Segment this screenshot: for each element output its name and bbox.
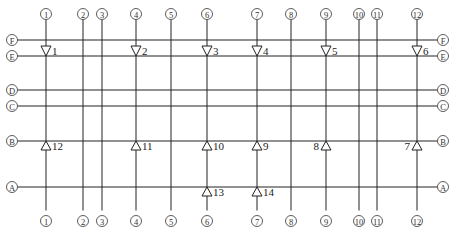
column-axis-12: 1212 (412, 9, 423, 227)
column-label: 5 (169, 217, 173, 227)
column-label: 11 (373, 10, 381, 20)
point-6: 6 (412, 45, 429, 57)
column-bubble-top: 8 (286, 9, 297, 20)
row-axis-E: EE (7, 51, 449, 62)
column-label: 10 (355, 217, 364, 227)
point-label: 5 (332, 45, 338, 57)
point-label: 11 (142, 140, 153, 152)
row-axis-D: DD (7, 85, 449, 96)
triangle-up-icon (412, 141, 422, 150)
column-bubble-bottom: 1 (41, 216, 52, 227)
triangle-up-icon (321, 141, 331, 150)
triangle-down-icon (41, 46, 51, 56)
column-bubble-top: 7 (252, 9, 263, 20)
row-label: A (9, 183, 16, 193)
column-bubble-top: 10 (354, 9, 365, 20)
row-label: E (9, 52, 14, 62)
row-label: F (10, 36, 15, 46)
point-label: 6 (423, 45, 429, 57)
column-bubble-bottom: 10 (354, 216, 365, 227)
row-label: D (440, 86, 446, 96)
point-14: 14 (252, 186, 275, 198)
column-bubble-top: 6 (202, 9, 213, 20)
point-2: 2 (131, 45, 148, 57)
column-label: 3 (100, 10, 104, 20)
column-bubble-top: 2 (78, 9, 89, 20)
column-label: 2 (81, 217, 85, 227)
column-bubble-top: 9 (321, 9, 332, 20)
column-axis-1: 11 (41, 9, 52, 227)
triangle-down-icon (131, 46, 141, 56)
row-bubble-right: B (438, 136, 449, 147)
column-bubble-bottom: 3 (97, 216, 108, 227)
column-label: 7 (255, 217, 259, 227)
point-label: 4 (263, 45, 269, 57)
row-bubble-left: B (7, 136, 18, 147)
point-5: 5 (321, 45, 338, 57)
row-axes: FFEEDDCCBBAA (7, 35, 449, 193)
row-bubble-left: C (7, 101, 18, 112)
triangle-down-icon (202, 46, 212, 56)
point-label: 12 (52, 140, 63, 152)
column-axis-2: 22 (78, 9, 89, 227)
column-label: 1 (44, 217, 48, 227)
row-axis-A: AA (7, 182, 449, 193)
triangle-up-icon (131, 141, 141, 150)
column-label: 11 (373, 217, 381, 227)
point-label: 14 (263, 186, 275, 198)
point-label: 2 (142, 45, 148, 57)
row-bubble-right: E (438, 51, 449, 62)
point-1: 1 (41, 45, 58, 57)
triangle-down-icon (321, 46, 331, 56)
axis-grid-diagram: FFEEDDCCBBAA 112233445566778899101011111… (0, 0, 456, 236)
column-axis-5: 55 (166, 9, 177, 227)
point-9: 9 (252, 140, 269, 152)
triangle-up-icon (41, 141, 51, 150)
column-axis-10: 1010 (354, 9, 365, 227)
row-bubble-right: C (438, 101, 449, 112)
row-label: D (9, 86, 15, 96)
column-bubble-bottom: 2 (78, 216, 89, 227)
triangle-up-icon (252, 141, 262, 150)
column-axis-8: 88 (286, 9, 297, 227)
point-8: 8 (314, 140, 332, 152)
row-label: B (440, 137, 446, 147)
survey-points: 1234567891011121314 (41, 45, 429, 198)
column-label: 8 (289, 10, 293, 20)
point-10: 10 (202, 140, 225, 152)
column-bubble-bottom: 8 (286, 216, 297, 227)
column-label: 2 (81, 10, 85, 20)
point-12: 12 (41, 140, 63, 152)
column-label: 6 (205, 217, 209, 227)
column-bubble-top: 3 (97, 9, 108, 20)
column-label: 6 (205, 10, 209, 20)
column-label: 7 (255, 10, 259, 20)
column-bubble-bottom: 7 (252, 216, 263, 227)
point-label: 3 (213, 45, 219, 57)
point-7: 7 (405, 140, 423, 152)
column-bubble-bottom: 11 (372, 216, 383, 227)
row-label: B (9, 137, 15, 147)
column-bubble-top: 12 (412, 9, 423, 20)
triangle-down-icon (412, 46, 422, 56)
row-bubble-right: F (438, 35, 449, 46)
column-bubble-bottom: 5 (166, 216, 177, 227)
column-label: 9 (324, 217, 328, 227)
column-axis-3: 33 (97, 9, 108, 227)
row-label: C (9, 102, 15, 112)
row-bubble-left: A (7, 182, 18, 193)
row-label: C (440, 102, 446, 112)
column-bubble-bottom: 6 (202, 216, 213, 227)
column-bubble-bottom: 12 (412, 216, 423, 227)
point-label: 8 (314, 140, 320, 152)
column-axis-11: 1111 (372, 9, 383, 227)
point-13: 13 (202, 186, 225, 198)
point-label: 1 (52, 45, 58, 57)
column-bubble-bottom: 9 (321, 216, 332, 227)
row-label: E (440, 52, 445, 62)
column-bubble-top: 11 (372, 9, 383, 20)
column-bubble-top: 4 (131, 9, 142, 20)
triangle-up-icon (252, 187, 262, 196)
row-axis-C: CC (7, 101, 449, 112)
column-axis-9: 99 (321, 9, 332, 227)
